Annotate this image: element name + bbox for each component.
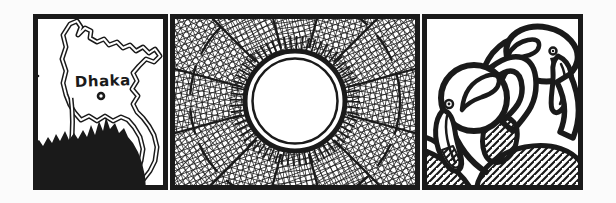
comic-page: Dhaka bbox=[0, 0, 616, 203]
panel-bangladesh-map: Dhaka bbox=[33, 14, 168, 190]
front-flamingo-pupil bbox=[448, 103, 451, 106]
panel-sun-crosshatch bbox=[170, 14, 420, 190]
bangladesh-map-drawing: Dhaka bbox=[33, 14, 168, 190]
dhaka-city-dot bbox=[98, 93, 104, 99]
sun-crosshatch-drawing bbox=[170, 14, 420, 190]
panel-two-flamingos bbox=[422, 14, 583, 190]
comic-strip: Dhaka bbox=[33, 14, 583, 190]
dhaka-label: Dhaka bbox=[75, 71, 131, 91]
flamingos-drawing bbox=[422, 14, 583, 190]
back-flamingo-pupil bbox=[552, 50, 554, 52]
skyline-silhouette bbox=[33, 117, 146, 190]
sun-circle bbox=[245, 51, 345, 151]
